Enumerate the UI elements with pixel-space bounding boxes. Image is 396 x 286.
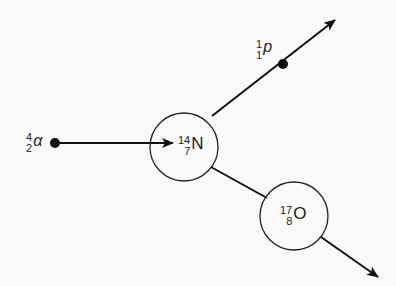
oxygen-exit-arrow: [321, 237, 378, 277]
nitrogen-symbol: N: [191, 134, 203, 154]
oxygen-symbol: O: [293, 204, 306, 224]
proton-dot: [278, 59, 288, 69]
alpha-label: 4 2 α: [26, 132, 42, 154]
oxygen-label: 17 8 O: [280, 205, 306, 227]
oxygen-atomic-number: 8: [286, 216, 292, 227]
proton-atomic-number: 1: [256, 50, 262, 61]
alpha-atomic-number: 2: [26, 143, 32, 154]
proton-trajectory-line: [212, 20, 335, 116]
proton-label: 1 1 p: [256, 39, 272, 61]
oxygen-trajectory-line: [211, 167, 267, 198]
alpha-symbol: α: [33, 132, 42, 150]
nitrogen-label: 14 7 N: [178, 135, 204, 157]
nitrogen-atomic-number: 7: [184, 146, 190, 157]
proton-symbol: p: [263, 38, 272, 56]
